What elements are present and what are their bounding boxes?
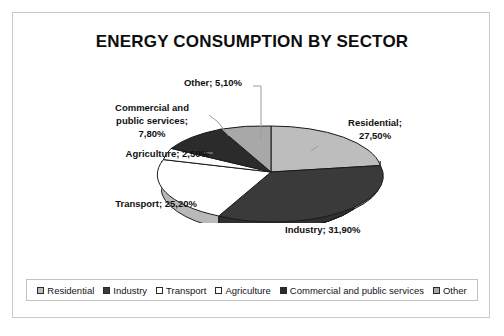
data-label-industry-text: Industry; 31,90% [285, 224, 361, 235]
legend-item-commercial[interactable]: Commercial and public services [280, 285, 424, 296]
legend-item-other[interactable]: Other [433, 285, 467, 296]
data-label-agriculture: Agriculture; 2,50% [61, 148, 209, 160]
legend-item-agriculture[interactable]: Agriculture [215, 285, 270, 296]
data-label-other: Other; 5,10% [165, 77, 261, 89]
chart-title: ENERGY CONSUMPTION BY SECTOR [13, 32, 491, 52]
data-label-commercial-line2: public services; [116, 115, 188, 126]
data-label-industry: Industry; 31,90% [285, 224, 445, 236]
data-label-agriculture-text: Agriculture; 2,50% [126, 148, 209, 159]
legend-item-residential[interactable]: Residential [37, 285, 94, 296]
data-label-transport-text: Transport; 25,20% [115, 198, 197, 209]
data-label-commercial-line3: 7,80% [139, 128, 166, 139]
legend-swatch-transport [156, 287, 163, 294]
data-label-commercial: Commercial and public services; 7,80% [91, 101, 213, 140]
chart-screenshot: ENERGY CONSUMPTION BY SECTOR [0, 0, 504, 336]
pie-plot-area: Other; 5,10% Commercial and public servi… [13, 53, 491, 268]
data-label-residential: Residential; 27,50% [319, 116, 431, 142]
legend-item-industry[interactable]: Industry [103, 285, 147, 296]
legend-swatch-industry [103, 287, 110, 294]
legend-label-residential: Residential [47, 285, 94, 296]
data-label-transport: Transport; 25,20% [49, 198, 197, 210]
legend-label-commercial: Commercial and public services [290, 285, 424, 296]
legend-label-industry: Industry [113, 285, 147, 296]
legend-label-transport: Transport [166, 285, 206, 296]
data-label-residential-line2: 27,50% [359, 130, 391, 141]
legend-swatch-residential [37, 287, 44, 294]
data-label-other-text: Other; 5,10% [184, 77, 242, 88]
legend-label-agriculture: Agriculture [225, 285, 270, 296]
legend-label-other: Other [443, 285, 467, 296]
chart-frame: ENERGY CONSUMPTION BY SECTOR [12, 12, 490, 318]
data-label-residential-line1: Residential; [348, 117, 402, 128]
legend-item-transport[interactable]: Transport [156, 285, 206, 296]
legend-swatch-commercial [280, 287, 287, 294]
data-label-commercial-line1: Commercial and [115, 102, 189, 113]
chart-legend: Residential Industry Transport Agricultu… [26, 279, 478, 301]
legend-swatch-other [433, 287, 440, 294]
legend-swatch-agriculture [215, 287, 222, 294]
